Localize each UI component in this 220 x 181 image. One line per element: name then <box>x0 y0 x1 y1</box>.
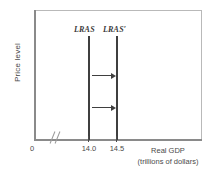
origin-label: 0 <box>30 144 34 153</box>
x-tick-14-5 <box>116 136 117 142</box>
axis-break-icon <box>49 131 65 145</box>
x-axis-label-units: (trillions of dollars) <box>118 156 218 167</box>
x-tick-14-0 <box>88 136 89 142</box>
shift-arrow-lower-shaft <box>92 107 112 108</box>
lras-curve <box>88 36 90 140</box>
x-tick-label-14-0: 14.0 <box>82 144 97 153</box>
lras-prime-curve <box>116 36 118 140</box>
x-axis-label: Real GDP (trillions of dollars) <box>118 145 218 167</box>
lras-prime-curve-label: LRAS′ <box>103 25 126 34</box>
y-axis-line <box>34 10 36 141</box>
aggregate-supply-chart: Price level LRAS LRAS′ 14.0 14.5 0 Real … <box>0 0 220 181</box>
lras-curve-label: LRAS <box>74 25 95 34</box>
shift-arrow-upper-head <box>111 73 116 79</box>
x-axis-label-main: Real GDP <box>118 145 218 156</box>
y-axis-label: Price level <box>13 18 22 108</box>
shift-arrow-lower-head <box>111 105 116 111</box>
shift-arrow-upper-shaft <box>92 75 112 76</box>
